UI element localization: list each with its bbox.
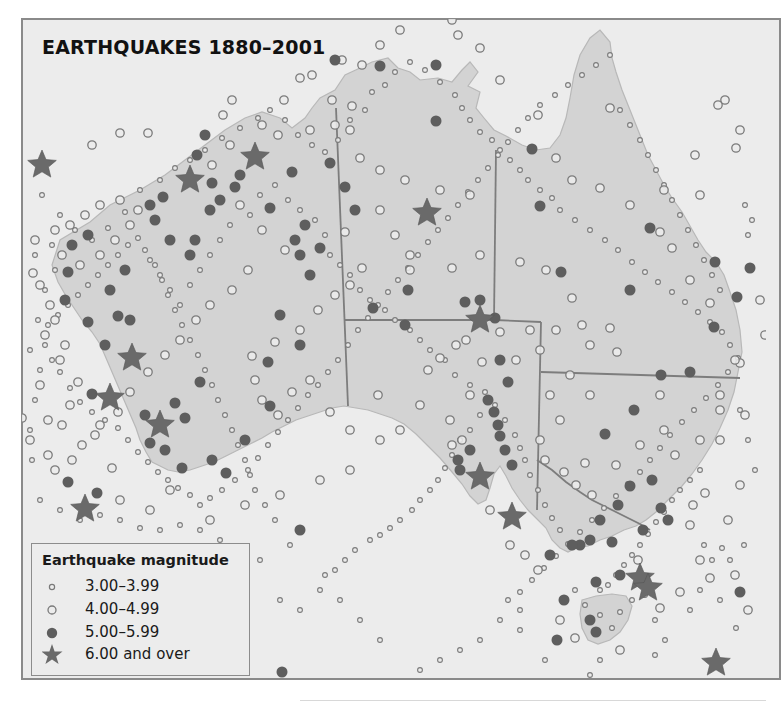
magnitude-3-marker bbox=[238, 126, 243, 131]
magnitude-3-marker bbox=[230, 428, 235, 433]
magnitude-3-marker bbox=[353, 548, 358, 553]
magnitude-3-marker bbox=[188, 158, 193, 163]
magnitude-3-marker bbox=[543, 503, 548, 508]
magnitude-5-marker bbox=[656, 370, 667, 381]
magnitude-5-marker bbox=[732, 292, 743, 303]
magnitude-4-marker bbox=[68, 456, 76, 464]
magnitude-5-marker bbox=[527, 144, 538, 155]
magnitude-4-marker bbox=[656, 391, 664, 399]
magnitude-4-marker bbox=[36, 381, 44, 389]
magnitude-3-marker bbox=[553, 93, 558, 98]
magnitude-5-marker bbox=[559, 595, 570, 606]
magnitude-4-marker bbox=[744, 606, 752, 614]
magnitude-3-marker bbox=[218, 238, 223, 243]
magnitude-5-marker bbox=[60, 295, 71, 306]
magnitude-3-marker bbox=[716, 383, 721, 388]
magnitude-5-marker bbox=[431, 60, 442, 71]
magnitude-3-marker bbox=[298, 608, 303, 613]
magnitude-3-marker bbox=[453, 373, 458, 378]
magnitude-3-marker bbox=[366, 316, 371, 321]
magnitude-3-marker bbox=[383, 83, 388, 88]
magnitude-3-marker bbox=[530, 578, 535, 583]
magnitude-4-marker bbox=[161, 351, 169, 359]
magnitude-3-marker bbox=[506, 140, 511, 145]
magnitude-3-marker bbox=[476, 178, 481, 183]
legend-item-4-to-5: 4.00–4.99 bbox=[32, 599, 242, 621]
magnitude-5-marker bbox=[160, 445, 171, 456]
magnitude-3-marker bbox=[498, 618, 503, 623]
magnitude-3-marker bbox=[358, 288, 363, 293]
magnitude-4-marker bbox=[376, 41, 384, 49]
magnitude-4-marker bbox=[274, 411, 282, 419]
magnitude-5-marker bbox=[230, 182, 241, 193]
page-edge-line bbox=[300, 700, 766, 701]
magnitude-3-marker bbox=[453, 93, 458, 98]
magnitude-3-marker bbox=[156, 470, 161, 475]
magnitude-5-marker bbox=[305, 270, 316, 281]
magnitude-3-marker bbox=[728, 343, 733, 348]
magnitude-5-marker bbox=[647, 475, 658, 486]
magnitude-3-marker bbox=[198, 503, 203, 508]
magnitude-3-marker bbox=[648, 458, 653, 463]
magnitude-3-marker bbox=[398, 518, 403, 523]
magnitude-3-marker bbox=[578, 530, 583, 535]
magnitude-4-marker bbox=[296, 74, 304, 82]
magnitude-5-marker bbox=[170, 398, 181, 409]
magnitude-4-marker bbox=[634, 556, 642, 564]
magnitude-3-marker bbox=[306, 393, 311, 398]
magnitude-3-marker bbox=[143, 248, 148, 253]
magnitude-4-marker bbox=[376, 436, 384, 444]
magnitude-3-marker bbox=[698, 588, 703, 593]
magnitude-3-marker bbox=[30, 458, 35, 463]
magnitude-5-marker bbox=[275, 310, 286, 321]
magnitude-3-marker bbox=[298, 208, 303, 213]
magnitude-3-marker bbox=[478, 638, 483, 643]
magnitude-4-marker bbox=[241, 501, 249, 509]
magnitude-3-marker bbox=[318, 588, 323, 593]
magnitude-3-marker bbox=[458, 648, 463, 653]
magnitude-4-marker bbox=[258, 226, 266, 234]
magnitude-4-marker bbox=[358, 264, 366, 272]
magnitude-4-marker bbox=[348, 102, 356, 110]
magnitude-3-marker bbox=[288, 543, 293, 548]
magnitude-5-marker bbox=[205, 205, 216, 216]
magnitude-4-marker bbox=[31, 236, 39, 244]
magnitude-3-marker bbox=[28, 348, 33, 353]
magnitude-3-marker bbox=[323, 233, 328, 238]
magnitude-4-marker bbox=[51, 226, 59, 234]
magnitude-4-marker bbox=[66, 401, 74, 409]
magnitude-3-marker bbox=[276, 430, 281, 435]
magnitude-3-marker bbox=[742, 543, 747, 548]
magnitude-5-marker bbox=[295, 250, 306, 261]
legend-label: 3.00–3.99 bbox=[85, 577, 159, 595]
magnitude-4-marker bbox=[281, 246, 289, 254]
magnitude-4-marker bbox=[134, 206, 142, 214]
magnitude-4-marker bbox=[206, 516, 214, 524]
magnitude-3-marker bbox=[566, 83, 571, 88]
magnitude-3-marker bbox=[656, 280, 661, 285]
magnitude-4-marker bbox=[436, 186, 444, 194]
magnitude-4-marker bbox=[331, 291, 339, 299]
magnitude-3-marker bbox=[210, 383, 215, 388]
magnitude-5-marker bbox=[207, 178, 218, 189]
magnitude-5-marker bbox=[300, 220, 311, 231]
magnitude-3-marker bbox=[106, 226, 111, 231]
magnitude-4-marker bbox=[696, 436, 704, 444]
magnitude-3-marker bbox=[36, 318, 41, 323]
magnitude-4-marker bbox=[44, 416, 52, 424]
magnitude-5-marker bbox=[507, 460, 518, 471]
magnitude-4-marker bbox=[258, 121, 266, 129]
small-circle-icon bbox=[42, 576, 72, 598]
magnitude-4-marker bbox=[536, 436, 544, 444]
magnitude-5-marker bbox=[709, 322, 720, 333]
magnitude-4-marker bbox=[406, 251, 414, 259]
magnitude-5-marker bbox=[277, 667, 288, 678]
magnitude-4-marker bbox=[96, 421, 104, 429]
magnitude-5-marker bbox=[235, 170, 246, 181]
magnitude-4-marker bbox=[46, 301, 54, 309]
magnitude-3-marker bbox=[526, 178, 531, 183]
magnitude-5-marker bbox=[240, 435, 251, 446]
magnitude-4-marker bbox=[44, 451, 52, 459]
magnitude-5-marker bbox=[591, 627, 602, 638]
magnitude-3-marker bbox=[46, 323, 51, 328]
